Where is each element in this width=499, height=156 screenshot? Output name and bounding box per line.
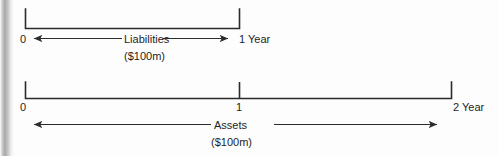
liabilities-end-label: 1 Year (239, 33, 270, 45)
liabilities-start-label: 0 (20, 33, 26, 45)
liabilities-bracket-path (26, 9, 240, 29)
liabilities-amount-label: ($100m) (124, 50, 165, 62)
assets-span-label: Assets (214, 119, 247, 131)
assets-axis-path (26, 82, 452, 99)
assets-amount-label: ($100m) (211, 136, 252, 148)
assets-axis-label-1: 1 (236, 101, 242, 113)
liabilities-span-label: Liabilities (124, 33, 169, 45)
timeline-graphics (0, 0, 499, 156)
maturity-timeline-figure: 0 Liabilities 1 Year ($100m) 0 1 2 Year … (0, 0, 499, 156)
assets-axis-label-2: 2 Year (453, 101, 484, 113)
assets-axis-label-0: 0 (20, 101, 26, 113)
